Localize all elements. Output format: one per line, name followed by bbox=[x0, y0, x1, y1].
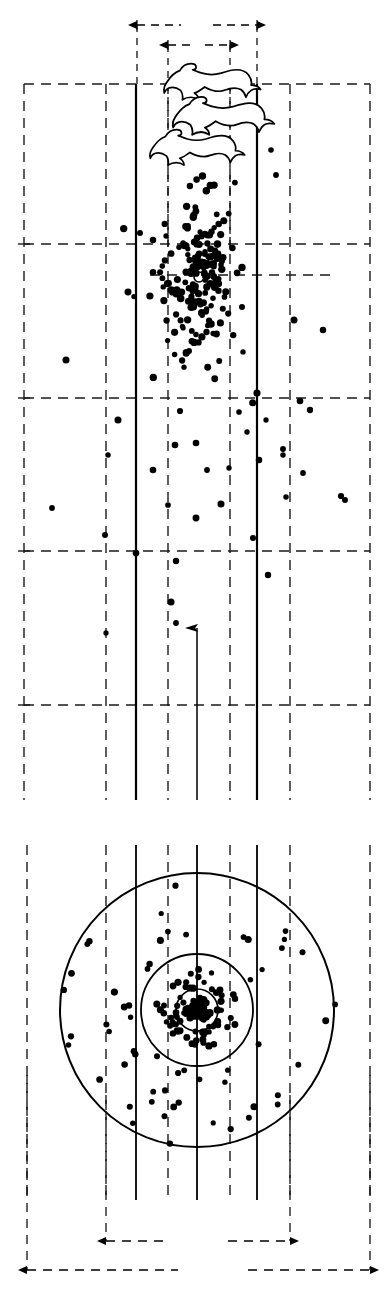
pellet bbox=[125, 289, 132, 296]
pellet bbox=[61, 987, 67, 993]
pellet bbox=[205, 323, 210, 328]
pellet bbox=[342, 497, 348, 503]
pellet bbox=[183, 932, 189, 938]
pellet bbox=[224, 1024, 230, 1030]
pellet bbox=[225, 311, 231, 317]
pellet bbox=[207, 280, 214, 287]
pellet bbox=[160, 275, 166, 281]
pellet bbox=[300, 470, 306, 476]
pellet bbox=[68, 970, 75, 977]
pellet bbox=[240, 349, 245, 354]
pellet bbox=[214, 211, 220, 217]
pellet bbox=[193, 176, 200, 183]
pellet bbox=[161, 1003, 167, 1009]
pellet bbox=[102, 532, 108, 538]
pellet bbox=[283, 494, 289, 500]
pellet bbox=[204, 364, 211, 371]
pellet bbox=[183, 203, 190, 210]
pellet bbox=[195, 966, 202, 973]
pellet bbox=[212, 225, 217, 230]
pellet bbox=[217, 319, 224, 326]
pellet bbox=[202, 249, 208, 255]
pellet bbox=[211, 375, 218, 382]
pellet bbox=[275, 1102, 281, 1108]
pellet bbox=[210, 331, 216, 337]
figure-background bbox=[0, 0, 387, 1301]
pellet bbox=[163, 233, 168, 238]
pellet bbox=[120, 225, 127, 232]
pellet bbox=[150, 374, 157, 381]
pellet bbox=[198, 301, 204, 307]
pellet bbox=[222, 288, 229, 295]
pellet bbox=[103, 1022, 109, 1028]
pellet bbox=[218, 266, 225, 273]
pellet bbox=[174, 1014, 180, 1020]
pellet bbox=[162, 1113, 168, 1119]
pellet bbox=[214, 1006, 221, 1013]
pellet bbox=[217, 231, 224, 238]
pellet bbox=[204, 467, 210, 473]
figure-root bbox=[0, 0, 387, 1301]
pellet bbox=[199, 172, 206, 179]
pellet bbox=[259, 967, 264, 972]
pellet bbox=[186, 1008, 193, 1015]
pellet bbox=[96, 1076, 103, 1083]
pellet bbox=[199, 233, 205, 239]
pellet bbox=[191, 286, 198, 293]
pellet bbox=[199, 1036, 206, 1043]
pellet bbox=[238, 264, 245, 271]
pellet bbox=[127, 1104, 133, 1110]
pellet bbox=[126, 1002, 133, 1009]
pellet bbox=[177, 408, 183, 414]
pellet bbox=[173, 291, 180, 298]
pellet bbox=[181, 1010, 186, 1015]
pellet bbox=[232, 996, 238, 1002]
pellet bbox=[150, 269, 157, 276]
pellet bbox=[208, 303, 213, 308]
pellet bbox=[180, 325, 185, 330]
pellet bbox=[194, 264, 200, 270]
pellet bbox=[332, 1002, 338, 1008]
pellet bbox=[189, 338, 196, 345]
pellet bbox=[173, 620, 179, 626]
pellet bbox=[154, 1053, 160, 1059]
pellet bbox=[130, 1120, 135, 1125]
pellet bbox=[175, 1028, 182, 1035]
pellet bbox=[295, 1062, 301, 1068]
pellet bbox=[322, 1017, 329, 1024]
pellet bbox=[196, 1008, 202, 1014]
pellet bbox=[279, 945, 285, 951]
pellet bbox=[203, 308, 209, 314]
pellet bbox=[167, 598, 174, 605]
pellet bbox=[172, 883, 178, 889]
pellet bbox=[201, 980, 206, 985]
pellet bbox=[163, 317, 169, 323]
pellet bbox=[210, 181, 217, 188]
pellet bbox=[226, 211, 232, 217]
pellet bbox=[173, 558, 179, 564]
pellet bbox=[246, 1115, 252, 1121]
pellet bbox=[105, 452, 111, 458]
pellet bbox=[187, 183, 193, 189]
pellet bbox=[265, 572, 271, 578]
pellet bbox=[86, 938, 92, 944]
pellet bbox=[181, 365, 186, 370]
pellet bbox=[170, 983, 177, 990]
pellet bbox=[220, 254, 227, 261]
pellet bbox=[193, 515, 200, 522]
pellet bbox=[121, 1061, 128, 1068]
pellet bbox=[66, 1042, 72, 1048]
pellet bbox=[249, 399, 256, 406]
pellet bbox=[244, 429, 249, 434]
pellet bbox=[297, 398, 304, 405]
pellet bbox=[162, 1087, 168, 1093]
pellet bbox=[204, 264, 209, 269]
pellet bbox=[177, 995, 182, 1000]
pellet bbox=[290, 316, 297, 323]
pellet bbox=[171, 329, 178, 336]
pellet bbox=[178, 317, 184, 323]
pellet bbox=[132, 1051, 138, 1057]
pellet bbox=[236, 409, 242, 415]
pellet bbox=[320, 327, 326, 333]
pellet bbox=[180, 240, 186, 246]
